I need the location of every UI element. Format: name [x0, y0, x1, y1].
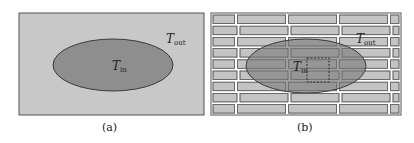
brick — [213, 15, 235, 24]
brick — [213, 37, 235, 46]
brick — [291, 93, 339, 102]
brick — [393, 93, 399, 102]
brick — [213, 49, 237, 58]
brick — [213, 82, 235, 91]
caption-b: (b) — [297, 121, 313, 134]
brick — [238, 105, 286, 114]
brick — [213, 105, 235, 114]
brick — [289, 105, 337, 114]
brick — [289, 15, 337, 24]
brick — [391, 37, 399, 46]
brick — [213, 26, 237, 35]
brick — [391, 82, 399, 91]
brick — [342, 26, 390, 35]
brick — [240, 93, 288, 102]
inclusion-ellipse — [246, 39, 366, 93]
brick — [393, 71, 399, 80]
brick — [342, 93, 390, 102]
brick — [213, 71, 237, 80]
brick — [213, 93, 237, 102]
brick — [393, 26, 399, 35]
brick — [240, 26, 288, 35]
panel-b: Tin Tout (b) — [211, 13, 401, 134]
caption-a: (a) — [102, 121, 117, 134]
brick — [340, 15, 388, 24]
brick — [291, 26, 339, 35]
panel-a: Tin Tout (a) — [19, 13, 204, 134]
figure: Tin Tout (a) Tin Tout (b) — [0, 0, 414, 143]
brick — [391, 105, 399, 114]
brick — [391, 15, 399, 24]
brick — [393, 49, 399, 58]
brick — [391, 60, 399, 69]
brick — [213, 60, 235, 69]
brick — [238, 15, 286, 24]
brick — [340, 105, 388, 114]
